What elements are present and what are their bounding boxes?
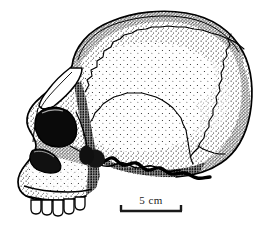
occipital-light <box>162 56 230 136</box>
scale-bar-label: 5 cm <box>139 194 162 206</box>
tooth-canine <box>53 200 63 216</box>
tooth-premolar-1 <box>64 199 74 214</box>
tooth-incisor-1 <box>31 200 41 214</box>
orbit <box>35 107 77 147</box>
tooth-incisor-2 <box>42 200 52 215</box>
skull-figure: 5 cm <box>0 0 273 231</box>
tooth-premolar-2 <box>75 197 85 210</box>
skull-illustration: 5 cm <box>0 0 273 231</box>
